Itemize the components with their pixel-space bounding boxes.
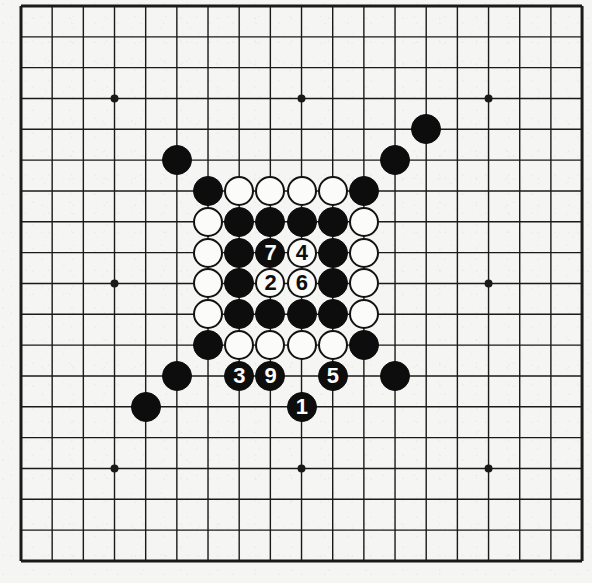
stone-white-n7-11[interactable] <box>224 330 254 360</box>
stone-white-n6-10[interactable] <box>193 299 223 329</box>
stone-white-n8-11[interactable] <box>255 330 285 360</box>
stone-black-n5-5[interactable] <box>162 145 192 175</box>
stone-white-n8-6[interactable] <box>255 176 285 206</box>
stone-move-number: 4 <box>296 242 308 264</box>
stone-move-9[interactable]: 9 <box>255 361 285 391</box>
stone-move-number: 5 <box>327 365 339 387</box>
stone-move-4[interactable]: 4 <box>287 238 317 268</box>
stone-move-6[interactable]: 6 <box>287 268 317 298</box>
stone-white-n10-11[interactable] <box>318 330 348 360</box>
stone-black-n10-8[interactable] <box>318 238 348 268</box>
stone-move-number: 6 <box>296 272 308 294</box>
stone-white-n9-11[interactable] <box>287 330 317 360</box>
stone-black-n10-9[interactable] <box>318 268 348 298</box>
stone-black-n12-12[interactable] <box>380 361 410 391</box>
stone-black-n13-4[interactable] <box>411 114 441 144</box>
stone-black-n11-6[interactable] <box>349 176 379 206</box>
stone-move-number: 9 <box>264 365 276 387</box>
stone-white-n10-6[interactable] <box>318 176 348 206</box>
stone-move-2[interactable]: 2 <box>255 268 285 298</box>
stone-black-n4-13[interactable] <box>131 392 161 422</box>
stone-white-n11-7[interactable] <box>349 207 379 237</box>
stone-black-n7-7[interactable] <box>224 207 254 237</box>
stone-white-n6-7[interactable] <box>193 207 223 237</box>
stone-move-5[interactable]: 5 <box>318 361 348 391</box>
stone-black-n12-5[interactable] <box>380 145 410 175</box>
stone-move-number: 7 <box>264 242 276 264</box>
stone-move-number: 2 <box>264 272 276 294</box>
go-diagram-root: 74263951 <box>0 0 592 583</box>
stone-layer: 74263951 <box>0 0 592 583</box>
stone-move-number: 1 <box>296 396 308 418</box>
stone-black-n8-7[interactable] <box>255 207 285 237</box>
stone-move-number: 3 <box>233 365 245 387</box>
stone-white-n6-9[interactable] <box>193 268 223 298</box>
stone-move-3[interactable]: 3 <box>224 361 254 391</box>
stone-black-n9-7[interactable] <box>287 207 317 237</box>
stone-black-n10-7[interactable] <box>318 207 348 237</box>
stone-black-n10-10[interactable] <box>318 299 348 329</box>
stone-black-n6-6[interactable] <box>193 176 223 206</box>
stone-black-n8-10[interactable] <box>255 299 285 329</box>
stone-black-n5-12[interactable] <box>162 361 192 391</box>
stone-move-7[interactable]: 7 <box>255 238 285 268</box>
stone-black-n7-10[interactable] <box>224 299 254 329</box>
stone-black-n7-9[interactable] <box>224 268 254 298</box>
stone-black-n11-11[interactable] <box>349 330 379 360</box>
stone-black-n7-8[interactable] <box>224 238 254 268</box>
stone-white-n11-8[interactable] <box>349 238 379 268</box>
stone-white-n7-6[interactable] <box>224 176 254 206</box>
stone-move-1[interactable]: 1 <box>287 392 317 422</box>
stone-white-n9-6[interactable] <box>287 176 317 206</box>
stone-white-n11-9[interactable] <box>349 268 379 298</box>
stone-white-n11-10[interactable] <box>349 299 379 329</box>
stone-white-n6-8[interactable] <box>193 238 223 268</box>
stone-black-n9-10[interactable] <box>287 299 317 329</box>
stone-black-n6-11[interactable] <box>193 330 223 360</box>
